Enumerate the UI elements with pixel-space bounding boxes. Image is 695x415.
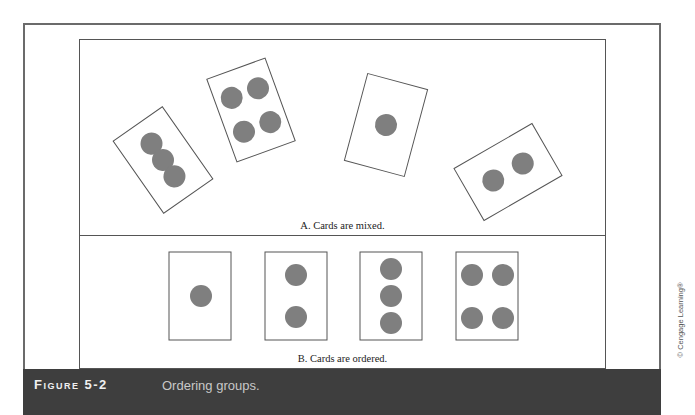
- panel-b-label: B. Cards are ordered.: [79, 353, 606, 364]
- figure-caption: Ordering groups.: [162, 378, 260, 393]
- figure-caption-bar: Figure 5-2 Ordering groups.: [23, 369, 661, 415]
- card-a-three-dots: [113, 107, 213, 213]
- figure-number: Figure 5-2: [34, 377, 108, 392]
- card-b-three-dots: [360, 252, 422, 340]
- panel-a-label: A. Cards are mixed.: [79, 220, 606, 231]
- card-a-two-dots: [454, 124, 562, 221]
- copyright-credit: © Cengage Learning®: [676, 283, 685, 358]
- card-b-one-dot: [169, 252, 231, 340]
- card-b-two-dots: [265, 252, 327, 340]
- card-a-one-dot: [344, 74, 427, 177]
- card-a-four-dots: [207, 58, 295, 162]
- card-b-four-dots: [456, 252, 518, 340]
